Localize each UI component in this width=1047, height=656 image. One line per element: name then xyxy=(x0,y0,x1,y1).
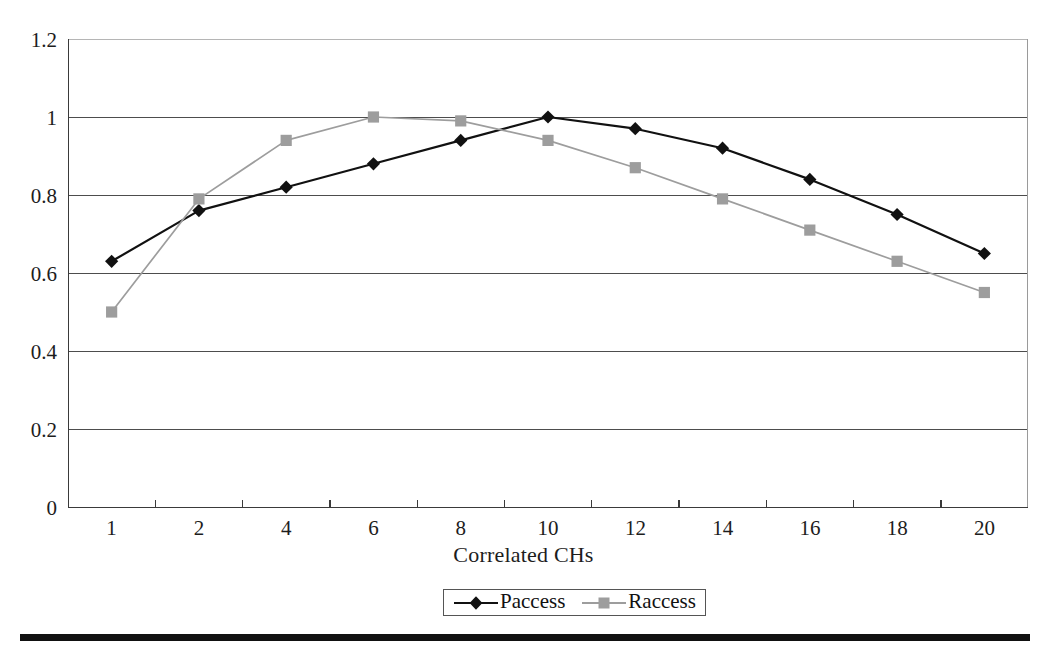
x-tick-label: 20 xyxy=(974,516,995,540)
data-point-paccess-18[interactable] xyxy=(890,208,903,221)
data-point-paccess-12[interactable] xyxy=(629,122,642,135)
legend-entry-paccess[interactable]: Paccess xyxy=(453,591,565,614)
y-tick-label: 0.6 xyxy=(31,262,57,286)
legend-marker-diamond-icon xyxy=(453,594,499,612)
series-paccess xyxy=(105,110,991,268)
x-tick-label: 12 xyxy=(625,516,646,540)
x-tick-label: 2 xyxy=(194,516,205,540)
data-point-paccess-10[interactable] xyxy=(541,110,554,123)
y-tick-label: 1 xyxy=(47,106,58,130)
data-point-raccess-6[interactable] xyxy=(368,111,379,122)
chart-legend: Paccess Raccess xyxy=(443,589,706,616)
data-point-raccess-2[interactable] xyxy=(193,193,204,204)
legend-label-raccess: Raccess xyxy=(628,591,696,614)
series-line-raccess xyxy=(112,117,985,312)
y-tick-label: 1.2 xyxy=(31,28,57,52)
data-point-raccess-20[interactable] xyxy=(979,287,990,298)
data-point-raccess-12[interactable] xyxy=(630,162,641,173)
data-point-paccess-16[interactable] xyxy=(803,173,816,186)
data-point-paccess-14[interactable] xyxy=(716,142,729,155)
data-point-raccess-4[interactable] xyxy=(281,135,292,146)
x-axis-tickmarks xyxy=(155,500,941,507)
bottom-horizontal-rule xyxy=(20,634,1030,641)
data-series-layer xyxy=(105,110,991,317)
x-tick-label: 10 xyxy=(538,516,559,540)
x-tick-label: 16 xyxy=(800,516,821,540)
figure: 1.2 1 0.8 0.6 0.4 0.2 0 1 2 4 6 8 10 12 … xyxy=(0,0,1047,656)
x-axis-tick-labels: 1 2 4 6 8 10 12 14 16 18 20 xyxy=(106,516,995,540)
x-tick-label: 8 xyxy=(456,516,467,540)
x-tick-label: 14 xyxy=(712,516,734,540)
data-point-raccess-10[interactable] xyxy=(542,135,553,146)
line-chart: 1.2 1 0.8 0.6 0.4 0.2 0 1 2 4 6 8 10 12 … xyxy=(0,0,1047,600)
data-point-raccess-1[interactable] xyxy=(106,306,117,317)
x-tick-label: 1 xyxy=(106,516,117,540)
data-point-raccess-14[interactable] xyxy=(717,193,728,204)
x-tick-label: 18 xyxy=(887,516,908,540)
data-point-raccess-8[interactable] xyxy=(455,115,466,126)
gridlines xyxy=(68,40,1028,430)
y-tick-label: 0.4 xyxy=(31,340,58,364)
legend-entry-raccess[interactable]: Raccess xyxy=(581,591,696,614)
data-point-raccess-18[interactable] xyxy=(891,256,902,267)
series-raccess xyxy=(106,111,990,317)
data-point-paccess-8[interactable] xyxy=(454,134,467,147)
data-point-paccess-20[interactable] xyxy=(978,247,991,260)
x-axis-title: Correlated CHs xyxy=(0,542,1047,568)
y-axis-tick-labels: 1.2 1 0.8 0.6 0.4 0.2 0 xyxy=(31,28,58,520)
data-point-paccess-6[interactable] xyxy=(367,157,380,170)
y-tick-label: 0.2 xyxy=(31,418,57,442)
legend-marker-square-icon xyxy=(581,594,627,612)
data-point-paccess-1[interactable] xyxy=(105,255,118,268)
y-tick-label: 0 xyxy=(47,496,58,520)
x-tick-label: 6 xyxy=(368,516,379,540)
legend-label-paccess: Paccess xyxy=(500,591,565,614)
data-point-paccess-4[interactable] xyxy=(280,181,293,194)
x-tick-label: 4 xyxy=(281,516,292,540)
data-point-raccess-16[interactable] xyxy=(804,225,815,236)
y-tick-label: 0.8 xyxy=(31,184,57,208)
